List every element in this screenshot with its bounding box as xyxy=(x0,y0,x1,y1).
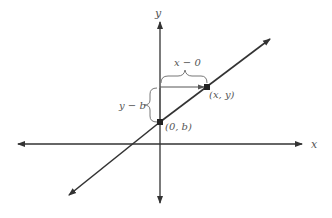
intercept-label: (0, b) xyxy=(165,121,192,132)
line-graph xyxy=(69,39,270,195)
horizontal-brace xyxy=(161,70,207,83)
vertical-brace-label: y − b xyxy=(118,100,146,111)
y-axis-label: y xyxy=(154,7,162,20)
slope-intercept-diagram: x y x − 0 y − b (0, b) (x, y) xyxy=(0,0,332,218)
xy-point-label: (x, y) xyxy=(209,89,235,100)
horizontal-brace-label: x − 0 xyxy=(174,57,201,68)
vertical-brace xyxy=(144,88,157,122)
x-axis-label: x xyxy=(311,138,318,151)
intercept-point xyxy=(157,119,163,125)
